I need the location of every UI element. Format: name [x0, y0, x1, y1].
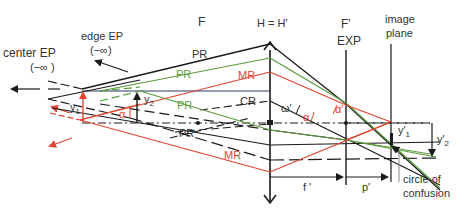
pr-label-green-upper: PR: [176, 68, 191, 80]
mr-label-upper: MR: [238, 69, 255, 81]
front-focal-label: F: [198, 15, 205, 29]
f-prime-label: f ': [303, 181, 311, 193]
p-prime-label: p': [362, 181, 370, 193]
center-ep-label: center EP: [3, 46, 56, 60]
optical-diagram: center EP (−∞ ) edge EP (−∞) F H = H' F'…: [0, 0, 466, 212]
edge-ep-label: edge EP: [81, 30, 123, 42]
edge-ep-inf-label: (−∞): [90, 44, 112, 56]
circle-of-confusion-mark: [390, 133, 393, 145]
alpha-prime-label: α': [335, 103, 343, 115]
exit-pupil-label: EXP: [337, 34, 361, 48]
mr-label-lower: MR: [224, 149, 241, 161]
y2-prime-label: y'2: [437, 133, 450, 148]
center-ep-inf-label: (−∞ ): [30, 61, 55, 73]
coc-label-1: circle of: [403, 173, 442, 185]
principal-planes-label: H = H': [257, 17, 288, 29]
omega-prime-label: ω': [281, 102, 292, 114]
pr-label-top: PR: [192, 48, 207, 60]
image-plane-label-2: plane: [386, 27, 413, 39]
alpha-label: α: [119, 108, 126, 120]
y1-prime-label: y'1: [398, 124, 411, 139]
focal-point-dot: [196, 121, 200, 125]
pr-label-lower: PR: [179, 127, 194, 139]
cr-label: CR: [240, 95, 256, 107]
pr-label-green-lower: PR: [177, 99, 192, 111]
y1-label: y1: [70, 101, 81, 116]
alpha-mid-label: α: [303, 111, 310, 123]
back-focal-label: F': [341, 17, 351, 31]
coc-label-2: confusion: [403, 187, 450, 199]
red-left-arrow-lower: [50, 138, 72, 146]
edge-ep-arrow: [96, 61, 128, 72]
image-plane-label-1: image: [385, 13, 415, 25]
